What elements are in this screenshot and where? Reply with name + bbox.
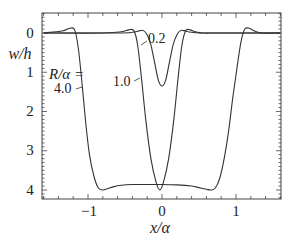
- y-tick-label-1: 1: [26, 64, 34, 80]
- curves: [44, 28, 281, 190]
- leader-0-2: [141, 41, 147, 45]
- y-tick-label-2: 2: [26, 103, 34, 119]
- curve-r-4-0: [44, 28, 281, 190]
- annotation-0-2: 0.2: [148, 31, 166, 46]
- chart: 0 1 2 3 4 −1 0 1 x/α w/h R/α = 4.0 1.0 0…: [0, 0, 292, 237]
- x-tick-label-0: 0: [158, 203, 166, 219]
- x-tick-label-neg1: −1: [81, 203, 97, 219]
- leader-1-0: [134, 78, 140, 81]
- annotation-4-0: 4.0: [54, 81, 72, 96]
- x-axis-title: x/α: [149, 219, 171, 236]
- x-tick-label-1: 1: [232, 203, 240, 219]
- y-tick-label-4: 4: [26, 182, 34, 198]
- y-tick-label-3: 3: [26, 142, 34, 158]
- leader-4-0: [76, 87, 82, 89]
- annotation-r-alpha: R/α =: [48, 66, 84, 82]
- y-axis-title: w/h: [8, 45, 31, 62]
- annotation-1-0: 1.0: [113, 74, 131, 89]
- y-tick-label-0: 0: [26, 25, 34, 41]
